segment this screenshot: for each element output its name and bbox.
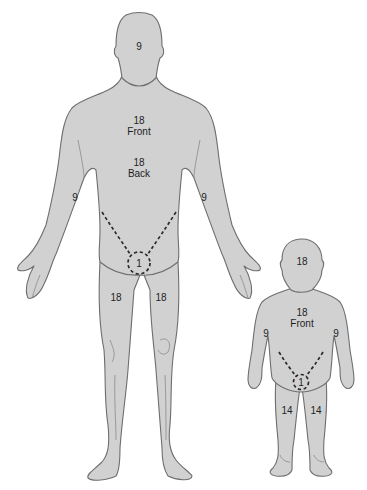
child-trunk-front-percent: 18 bbox=[290, 307, 313, 318]
adult-left-arm-percent: 9 bbox=[201, 192, 207, 203]
child-left-leg bbox=[302, 380, 332, 476]
adult-trunk-front-percent: 18 bbox=[127, 115, 150, 126]
adult-head-percent: 9 bbox=[136, 41, 142, 52]
child-genitalia-percent: 1 bbox=[298, 377, 304, 388]
adult-trunk-front: 18 Front bbox=[127, 115, 150, 137]
adult-trunk-back-percent: 18 bbox=[128, 157, 150, 168]
rule-of-nines-diagram: 9 18 Front 18 Back 9 9 1 18 18 18 18 Fro… bbox=[0, 0, 367, 490]
adult-left-leg bbox=[144, 262, 192, 480]
child-left-arm-percent: 9 bbox=[333, 328, 339, 339]
child-figure bbox=[248, 239, 354, 476]
adult-trunk-back: 18 Back bbox=[128, 157, 150, 179]
adult-right-leg-percent: 18 bbox=[110, 292, 121, 303]
adult-left-leg-percent: 18 bbox=[155, 292, 166, 303]
child-left-leg-percent: 14 bbox=[310, 405, 321, 416]
child-right-leg-percent: 14 bbox=[281, 405, 292, 416]
adult-right-arm-percent: 9 bbox=[72, 192, 78, 203]
adult-trunk-front-label: Front bbox=[127, 126, 150, 137]
adult-trunk-back-label: Back bbox=[128, 168, 150, 179]
child-right-arm-percent: 9 bbox=[263, 328, 269, 339]
child-right-leg bbox=[270, 380, 300, 476]
body-outlines bbox=[0, 0, 367, 490]
child-trunk-front: 18 Front bbox=[290, 307, 313, 329]
adult-genitalia-percent: 1 bbox=[136, 258, 142, 269]
adult-figure bbox=[18, 13, 261, 480]
child-trunk-front-label: Front bbox=[290, 318, 313, 329]
child-head-percent: 18 bbox=[296, 256, 307, 267]
